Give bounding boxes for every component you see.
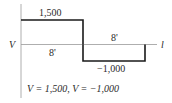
caption: V = 1,500, V = −1,000 <box>27 84 119 94</box>
positive-shear-block <box>21 20 83 45</box>
positive-value-label: 1,500 <box>39 8 62 18</box>
negative-value-label: −1,000 <box>97 64 125 74</box>
first-length-label: 8' <box>49 48 56 58</box>
negative-shear-block <box>83 45 145 62</box>
second-length-label: 8' <box>111 33 118 43</box>
l-axis-label: l <box>161 40 164 50</box>
v-axis-label: V <box>9 40 15 50</box>
